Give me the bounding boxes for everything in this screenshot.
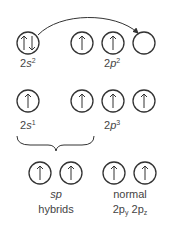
- label-2s2: 2s2: [20, 57, 36, 69]
- label-2s1: 2s1: [20, 119, 36, 131]
- label-normal: normal: [113, 188, 147, 200]
- orbital-sp-hybrid-2: [60, 162, 82, 184]
- orbital-2p-2: [102, 32, 124, 54]
- orbital-2p-z: [133, 90, 155, 112]
- orbital-sp-hybrid-1: [29, 162, 51, 184]
- orbital-diagram: 2s2 2p2 2s1 2p3 sp hybrids normal 2py 2p…: [0, 0, 169, 226]
- orbital-2p-1: [71, 32, 93, 54]
- orbital-2p-y: [102, 90, 124, 112]
- orbital-normal-2py: [103, 162, 125, 184]
- orbital-2s-half: [17, 90, 39, 112]
- orbital-2p-x: [71, 90, 93, 112]
- label-sp: sp: [50, 188, 62, 200]
- label-2p3: 2p3: [104, 119, 120, 131]
- orbital-normal-2pz: [134, 162, 156, 184]
- promotion-arrow: [38, 17, 138, 35]
- hybridization-brace: [17, 136, 94, 151]
- label-2p2: 2p2: [104, 57, 120, 69]
- label-2py-2pz: 2py 2pz: [113, 203, 148, 217]
- label-hybrids: hybrids: [38, 203, 74, 215]
- orbital-2p-empty: [133, 32, 155, 54]
- orbital-2s-filled: [17, 32, 39, 54]
